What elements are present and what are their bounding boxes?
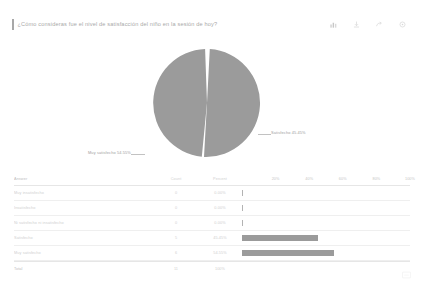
row-bar-cell <box>242 231 410 245</box>
total-bar-cell <box>242 262 410 276</box>
total-percent: 100% <box>198 267 242 271</box>
axis-tick-40: 40% <box>305 177 313 181</box>
pie-chart <box>152 48 262 158</box>
column-header-count: Count <box>154 177 198 181</box>
row-answer-label: Insatisfecho <box>14 206 154 210</box>
row-answer-label: Satisfecho <box>14 236 154 240</box>
table-row[interactable]: Satisfecho 5 45.45% <box>14 231 410 246</box>
settings-icon[interactable] <box>399 21 406 28</box>
table-row[interactable]: Insatisfecho 0 0.00% <box>14 201 410 216</box>
resize-handle-icon[interactable] <box>402 271 411 279</box>
row-answer-label: Ni satisfecho ni insatisfecho <box>14 221 154 225</box>
table-header-row: Answer Count Percent 20% 40% 60% 80% 100… <box>14 172 410 186</box>
axis-tick-labels: 20% 40% 60% 80% 100% <box>242 172 410 185</box>
column-header-percent: Percent <box>198 177 242 181</box>
results-table: Answer Count Percent 20% 40% 60% 80% 100… <box>14 172 410 276</box>
pie-leader-line-left <box>131 154 145 155</box>
row-bar <box>242 250 334 256</box>
table-total-row: Total 11 100% <box>14 261 410 276</box>
column-header-answer: Answer <box>14 177 154 181</box>
row-percent: 0.00% <box>198 191 242 195</box>
row-percent: 0.00% <box>198 206 242 210</box>
row-bar-cell <box>242 246 410 260</box>
row-percent: 45.45% <box>198 236 242 240</box>
row-bar-cell <box>242 201 410 215</box>
row-percent: 54.55% <box>198 251 242 255</box>
table-row[interactable]: Muy insatisfecho 0 0.00% <box>14 186 410 201</box>
header-toolbar <box>330 21 412 28</box>
row-percent: 0.00% <box>198 221 242 225</box>
axis-tick-100: 100% <box>405 177 415 181</box>
row-answer-label: Muy insatisfecho <box>14 191 154 195</box>
row-count: 0 <box>154 221 198 225</box>
table-row[interactable]: Muy satisfecho 6 54.55% <box>14 246 410 261</box>
row-count: 0 <box>154 191 198 195</box>
total-count: 11 <box>154 267 198 271</box>
row-bar <box>242 235 318 241</box>
download-icon[interactable] <box>353 21 360 28</box>
axis-tick-60: 60% <box>339 177 347 181</box>
row-bar <box>242 220 243 226</box>
axis-tick-80: 80% <box>372 177 380 181</box>
row-count: 6 <box>154 251 198 255</box>
row-bar <box>242 205 243 211</box>
row-bar-cell <box>242 216 410 230</box>
row-count: 5 <box>154 236 198 240</box>
page-title: ¿Cómo consideras fue el nivel de satisfa… <box>12 19 217 30</box>
row-answer-label: Muy satisfecho <box>14 251 154 255</box>
question-header: ¿Cómo consideras fue el nivel de satisfa… <box>12 16 412 32</box>
pie-chart-region: Satisfecho 45.45% Muy satisfecho 54.55% <box>0 44 422 164</box>
pie-label-muy-satisfecho: Muy satisfecho 54.55% <box>88 150 131 155</box>
pie-label-satisfecho: Satisfecho 45.45% <box>271 130 306 135</box>
pie-leader-line-right <box>258 134 271 135</box>
axis-tick-20: 20% <box>272 177 280 181</box>
share-icon[interactable] <box>376 21 383 28</box>
table-row[interactable]: Ni satisfecho ni insatisfecho 0 0.00% <box>14 216 410 231</box>
row-bar-cell <box>242 186 410 200</box>
total-label: Total <box>14 267 154 271</box>
title-accent-bar <box>12 19 14 30</box>
row-bar <box>242 190 243 196</box>
row-count: 0 <box>154 206 198 210</box>
question-title-text: ¿Cómo consideras fue el nivel de satisfa… <box>18 21 218 27</box>
bar-chart-icon[interactable] <box>330 21 337 28</box>
